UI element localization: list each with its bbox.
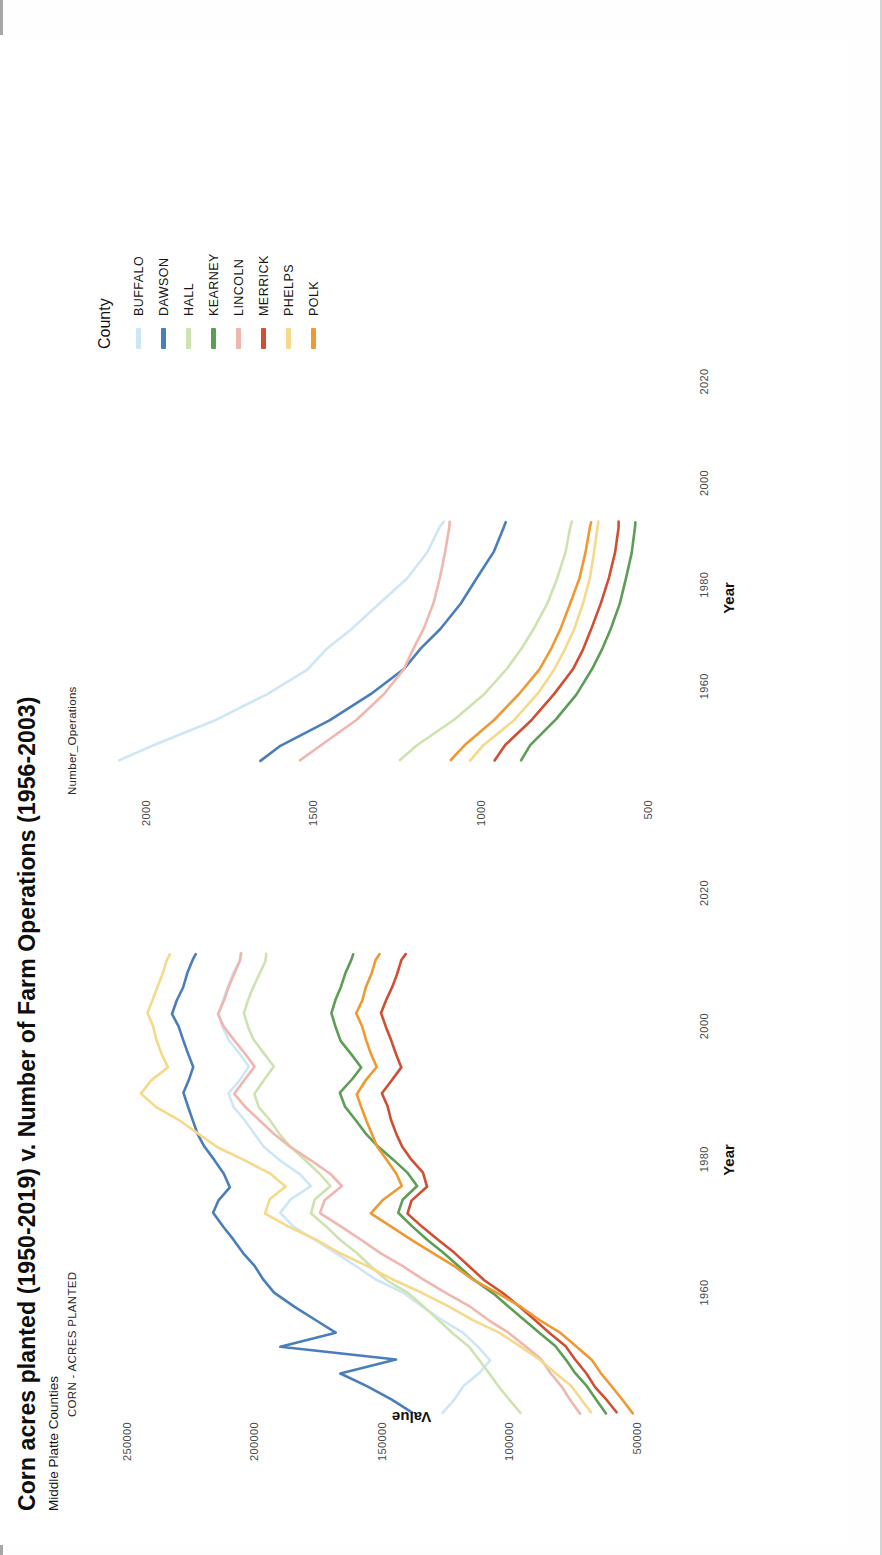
y-axis-title: Value: [392, 1409, 431, 1426]
legend-item-phelps[interactable]: PHELPS: [276, 119, 301, 349]
y-axis-tick: 150000: [376, 1422, 388, 1461]
y-axis-tick: 100000: [503, 1422, 515, 1461]
line-kearney: [521, 522, 635, 760]
legend-item-label: HALL: [182, 283, 196, 316]
x-axis-tick: 1980: [698, 572, 710, 598]
figure-title: Corn acres planted (1950-2019) v. Number…: [14, 696, 41, 1511]
legend-item-kearney[interactable]: KEARNEY: [201, 119, 226, 349]
scanned-page: Corn acres planted (1950-2019) v. Number…: [0, 0, 882, 1555]
line-series-left: [96, 907, 688, 1413]
line-buffalo: [219, 953, 491, 1412]
legend-item-dawson[interactable]: DAWSON: [151, 119, 176, 349]
legend-item-label: POLK: [307, 281, 321, 316]
line-hall: [400, 521, 572, 760]
y-axis-tick: 1500: [307, 800, 319, 826]
plot-area-left: Value Year 50000100000150000200000250000…: [96, 907, 688, 1413]
line-polk: [356, 954, 633, 1413]
panel-corn-acres-planted: CORN - ACRES PLANTED Value Year 50000100…: [96, 907, 736, 1467]
legend-swatch-icon: [161, 328, 166, 349]
x-axis-tick: 1980: [698, 1146, 710, 1172]
legend-item-label: BUFFALO: [132, 256, 146, 316]
x-axis-tick: 1960: [698, 1279, 710, 1305]
legend-title: County: [96, 119, 114, 349]
title-block: Corn acres planted (1950-2019) v. Number…: [14, 696, 61, 1511]
legend-item-polk[interactable]: POLK: [301, 119, 326, 349]
y-axis-tick: 200000: [248, 1422, 260, 1461]
legend-swatch-icon: [211, 328, 216, 349]
legend-item-label: KEARNEY: [207, 253, 221, 316]
legend-rows: BUFFALODAWSONHALLKEARNEYLINCOLNMERRICKPH…: [126, 119, 326, 349]
legend-swatch-icon: [186, 328, 191, 349]
legend-item-hall[interactable]: HALL: [176, 119, 201, 349]
legend-swatch-icon: [286, 328, 291, 349]
y-axis-tick: 250000: [121, 1422, 133, 1461]
panel-right-title: Number_Operations: [66, 686, 78, 795]
legend-item-label: LINCOLN: [232, 259, 246, 316]
line-merrick: [495, 522, 619, 761]
x-axis-tick: 2020: [698, 368, 710, 394]
rotated-figure-wrapper: Corn acres planted (1950-2019) v. Number…: [0, 35, 850, 1545]
y-axis-tick: 50000: [631, 1422, 643, 1455]
x-axis-tick: 2020: [698, 880, 710, 906]
y-axis-tick: 500: [642, 800, 654, 820]
line-dawson: [172, 954, 412, 1412]
y-axis-tick: 2000: [140, 800, 152, 826]
x-axis-title-right: Year: [720, 582, 737, 614]
line-buffalo: [119, 522, 444, 761]
legend-item-label: MERRICK: [257, 255, 271, 316]
figure-subtitle: Middle Platte Counties: [46, 696, 61, 1511]
plot-inner-right: [96, 405, 688, 791]
line-series-right: [96, 405, 688, 791]
plot-inner-left: [96, 907, 688, 1413]
panel-number-operations: Number_Operations Year 50010001500200019…: [96, 405, 736, 845]
legend-item-buffalo[interactable]: BUFFALO: [126, 119, 151, 349]
legend-item-merrick[interactable]: MERRICK: [251, 119, 276, 349]
legend-item-lincoln[interactable]: LINCOLN: [226, 119, 251, 349]
legend-item-label: DAWSON: [157, 258, 171, 317]
legend-swatch-icon: [236, 328, 241, 349]
plot-area-right: Year 5001000150020001960198020002020: [96, 405, 688, 791]
legend-swatch-icon: [311, 328, 316, 349]
legend: County BUFFALODAWSONHALLKEARNEYLINCOLNME…: [96, 119, 326, 349]
legend-swatch-icon: [136, 328, 141, 349]
line-dawson: [260, 522, 505, 761]
line-hall: [244, 954, 521, 1413]
x-axis-tick: 2000: [698, 1013, 710, 1039]
x-axis-tick: 1960: [698, 673, 710, 699]
x-axis-tick: 2000: [698, 470, 710, 496]
panel-left-title: CORN - ACRES PLANTED: [66, 1272, 78, 1417]
line-lincoln: [218, 953, 580, 1413]
figure: Corn acres planted (1950-2019) v. Number…: [0, 35, 850, 1545]
legend-item-label: PHELPS: [282, 264, 296, 316]
legend-swatch-icon: [261, 328, 266, 349]
y-axis-tick: 1000: [475, 800, 487, 826]
x-axis-title-left: Year: [720, 1144, 737, 1176]
